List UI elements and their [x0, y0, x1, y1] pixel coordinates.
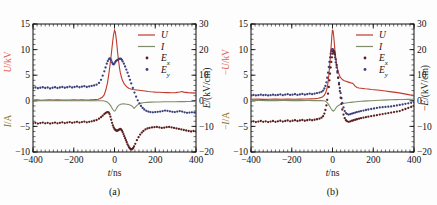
panel-label: (a)	[109, 186, 120, 198]
y-left-tick-label: −5	[238, 122, 248, 132]
plot-b: −400−2000200400−10−5051015−20−100102030−…	[218, 0, 437, 205]
y-left-tick-label: 10	[239, 45, 249, 55]
x-tick-label: 200	[366, 155, 381, 165]
plot-a: −400−2000200400−10−5051015−20−100102030U…	[0, 0, 219, 205]
y-right-tick-label: −20	[199, 147, 214, 157]
plot-frame	[251, 24, 414, 152]
x-tick-label: 0	[330, 155, 335, 165]
y-right-tick-label: −10	[417, 122, 432, 132]
points-Ex	[250, 50, 415, 123]
y-right-tick-label: −10	[199, 122, 214, 132]
x-tick-label: 200	[148, 155, 163, 165]
x-tick-label: −200	[282, 155, 302, 165]
y-left-tick-label: 5	[243, 70, 248, 80]
legend: UIExEy	[356, 30, 389, 79]
legend-label-U: U	[379, 30, 387, 40]
y-left-tick-label: 15	[21, 19, 31, 29]
y-left-tick-label: −5	[20, 122, 30, 132]
data-traces	[250, 30, 415, 124]
y-left-tick-label: 5	[25, 70, 30, 80]
y-left-tick-label: −10	[233, 147, 248, 157]
figure-container: −400−2000200400−10−5051015−20−100102030U…	[0, 0, 437, 205]
axis-ticks	[251, 24, 414, 152]
points-Ey	[32, 57, 197, 114]
y-left-tick-label: 0	[243, 96, 248, 106]
x-tick-label: 0	[112, 155, 117, 165]
legend-label-U: U	[161, 30, 169, 40]
panel-label: (b)	[327, 186, 339, 198]
data-traces	[32, 30, 197, 150]
trace-I	[251, 99, 414, 111]
trace-I	[33, 101, 196, 111]
x-axis-title: t/ns	[108, 168, 122, 178]
points-Ex	[32, 111, 197, 151]
y-right-tick-label: 20	[199, 45, 209, 55]
y-axis-title-field: −E/(kV/cm)	[420, 65, 431, 111]
x-tick-label: −200	[64, 155, 84, 165]
trace-U	[251, 30, 414, 100]
y-left-tick-label: 0	[25, 96, 30, 106]
y-axis-title-voltage: −U/kV	[221, 49, 231, 76]
x-axis-title: t/ns	[326, 168, 340, 178]
y-axis-title-field: E/(kV/cm)	[202, 68, 213, 110]
y-right-tick-label: 30	[199, 19, 209, 29]
chart-panel-a: −400−2000200400−10−5051015−20−100102030U…	[0, 0, 219, 205]
legend-label-I: I	[160, 42, 165, 52]
y-axis-title-voltage: U/kV	[3, 51, 13, 72]
y-left-tick-label: −10	[15, 147, 30, 157]
chart-panel-b: −400−2000200400−10−5051015−20−100102030−…	[218, 0, 437, 205]
y-left-tick-label: 10	[21, 45, 31, 55]
y-right-tick-label: −20	[417, 147, 432, 157]
y-left-tick-label: 15	[239, 19, 249, 29]
y-axis-title-current: I/A	[3, 115, 13, 129]
y-right-tick-label: 20	[417, 45, 427, 55]
y-axis-title-current: −I/A	[221, 112, 231, 130]
legend: UIExEy	[138, 30, 171, 79]
y-right-tick-label: 30	[417, 19, 427, 29]
legend-label-I: I	[378, 42, 383, 52]
